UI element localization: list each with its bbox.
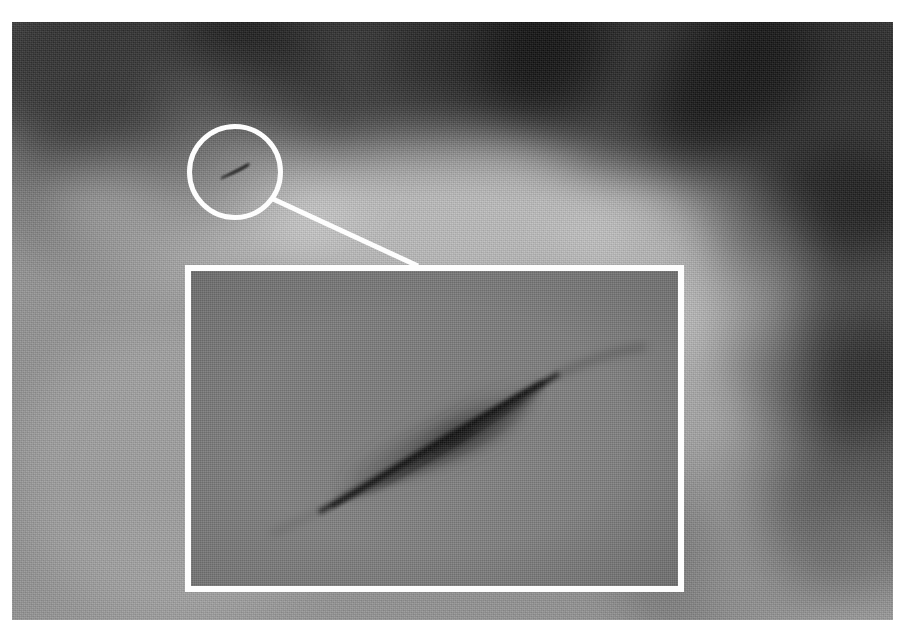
magnified-inset[interactable] <box>185 265 684 592</box>
circle-callout[interactable] <box>187 124 283 220</box>
inset-background <box>191 271 678 586</box>
screenshot-root <box>0 0 903 637</box>
photograph-plate <box>12 22 893 620</box>
